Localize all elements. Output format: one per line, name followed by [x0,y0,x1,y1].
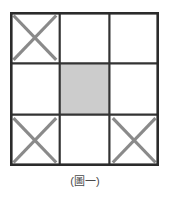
cell-center-shaded-fill [60,63,110,114]
three-by-three-grid-diagram [10,12,159,166]
figure-caption: (圖一) [0,174,170,188]
grid-svg [10,12,159,166]
figure-container: (圖一) [0,0,170,198]
